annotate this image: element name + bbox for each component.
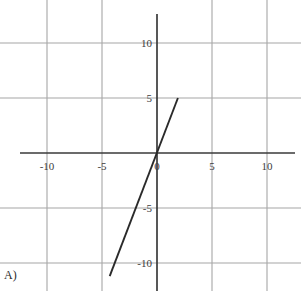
y-axis-tick-label: 10 [141,38,152,49]
y-axis-tick-label: -5 [143,203,152,214]
y-axis-tick-label: -10 [137,258,152,269]
coordinate-plane: -10-50510105-5-10 [0,0,301,291]
x-axis-tick-label: -5 [97,161,106,172]
x-axis-tick-label: 5 [209,161,215,172]
x-axis-tick-label: 0 [154,161,160,172]
x-axis-tick-label: 10 [262,161,273,172]
y-axis-tick-label: 5 [147,93,153,104]
answer-choice-label: A) [4,269,17,281]
plotted-line [110,98,178,276]
graph-screenshot: -10-50510105-5-10 A) [0,0,301,291]
x-axis-tick-label: -10 [40,161,55,172]
